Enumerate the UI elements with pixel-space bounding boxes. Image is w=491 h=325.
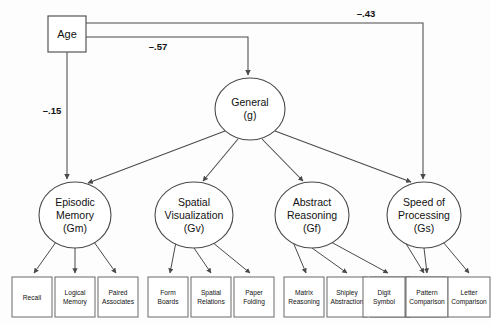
indicator-box-digit-symbol-frame[interactable] (363, 277, 405, 317)
indicator-box-letter-comparison[interactable] (448, 277, 490, 317)
indicator-label-letter-comparison-line1: Letter (461, 289, 479, 296)
sem-canvas-overlay: Pattern Comparison Letter Comparison Dig… (0, 0, 491, 325)
indicator-label-digit-symbol-b: Symbol (373, 298, 396, 306)
indicator-label-digit-symbol-a: Digit (377, 289, 390, 297)
coefficient-age-to-gs: –.43 (357, 8, 376, 19)
coefficient-age-to-gm: –.15 (43, 105, 62, 116)
indicator-label-pattern-comparison-line1: Pattern (416, 289, 438, 296)
indicator-label-letter-comparison-line2: Comparison (451, 298, 487, 306)
indicator-label-pattern-comparison-line2: Comparison (409, 298, 445, 306)
coefficient-age-to-g: –.57 (149, 41, 168, 52)
sem-path-diagram: Age General (g) Episodic Memory (Gm) Spa… (0, 0, 491, 325)
indicator-box-pattern-comparison[interactable] (406, 277, 448, 317)
